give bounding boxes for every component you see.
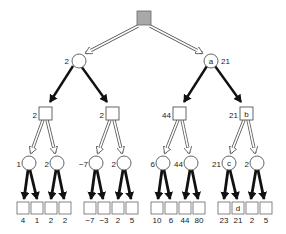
node-value: −7 (79, 160, 89, 169)
level3-node: 1 (17, 156, 36, 170)
leaf-value: 5 (264, 216, 269, 225)
game-tree-diagram: 2 a 21 2 2 44 b 21 1 2 −7 2 6 (0, 0, 286, 234)
node-label: b (244, 110, 249, 119)
node-value: 2 (100, 111, 105, 120)
node-label: c (227, 159, 231, 168)
node-value: 44 (174, 160, 183, 169)
node-value: 2 (112, 160, 117, 169)
level2-node: 44 (162, 107, 186, 120)
leaf-nodes (17, 202, 272, 214)
leaf-value: 21 (234, 216, 243, 225)
level3-node-c: c 21 (212, 156, 236, 170)
leaf-value: 5 (130, 216, 135, 225)
leaf-value: 1 (35, 216, 40, 225)
level3-node: 2 (245, 156, 264, 170)
level1-node: 2 (65, 54, 86, 68)
level3-node: 2 (45, 156, 64, 170)
leaf-value: 80 (195, 216, 204, 225)
node-label: a (209, 57, 214, 66)
leaf-value: 6 (169, 216, 174, 225)
leaf-value: 10 (153, 216, 162, 225)
leaf-value: −3 (99, 216, 109, 225)
level3-node: −7 (79, 156, 103, 170)
node-value: 21 (229, 111, 238, 120)
solid-edges-leaves (24, 170, 264, 199)
leaf-value: 44 (181, 216, 190, 225)
leaf-values: 4 1 2 2 −7 −3 2 5 10 6 44 80 23 21 2 5 (21, 216, 269, 225)
leaf-value: 23 (220, 216, 229, 225)
leaf-value: 2 (116, 216, 121, 225)
node-value: 1 (17, 160, 22, 169)
leaf-value: 2 (63, 216, 68, 225)
root-node (137, 11, 151, 25)
node-value: 21 (221, 57, 230, 66)
level2-node-b: b 21 (229, 107, 253, 120)
node-value: 2 (65, 57, 70, 66)
leaf-value: 2 (49, 216, 54, 225)
solid-edges-level2 (50, 66, 241, 102)
hollow-edges-level1 (86, 26, 202, 53)
level3-node: 6 (151, 156, 170, 170)
level2-node: 2 (33, 107, 52, 120)
node-value: 6 (151, 160, 156, 169)
node-value: 2 (33, 111, 38, 120)
hollow-edges-level3 (31, 120, 255, 153)
level1-node-a: a 21 (204, 54, 230, 68)
leaf-value: 2 (250, 216, 255, 225)
level3-node: 44 (174, 156, 198, 170)
leaf-value: −7 (85, 216, 95, 225)
node-value: 44 (162, 111, 171, 120)
node-value: 21 (212, 160, 221, 169)
level2-node: 2 (100, 107, 119, 120)
node-value: 2 (45, 160, 50, 169)
leaf-value: 4 (21, 216, 26, 225)
node-value: 2 (245, 160, 250, 169)
level3-node: 2 (112, 156, 131, 170)
leaf-label-d: d (236, 204, 240, 213)
